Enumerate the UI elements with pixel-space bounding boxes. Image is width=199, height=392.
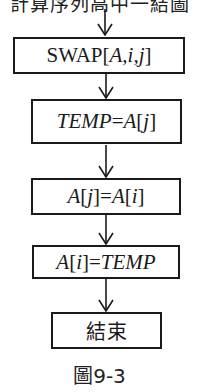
- node-text: ]: [149, 109, 156, 134]
- node-text: A: [110, 43, 123, 68]
- flow-node-temp-assign: TEMP=A[j]: [31, 99, 182, 144]
- node-text: ]: [82, 250, 89, 275]
- arrow-down-icon: [96, 145, 116, 178]
- node-text: A: [112, 184, 125, 209]
- node-text: ]: [145, 43, 152, 68]
- arrow-down-icon: [96, 74, 116, 99]
- node-text: [: [69, 250, 76, 275]
- node-text: A: [124, 109, 137, 134]
- arrow-down-icon: [96, 215, 116, 245]
- flow-node-swap: SWAP[A,i,j]: [13, 37, 185, 74]
- node-text: ]: [93, 184, 100, 209]
- node-text: A: [56, 250, 69, 275]
- node-text: =: [89, 250, 101, 275]
- node-text: SWAP[: [46, 43, 109, 68]
- arrow-down-icon: [95, 9, 115, 36]
- figure-caption: 圖9-3: [0, 360, 199, 389]
- flow-node-ai-assign: A[i]=TEMP: [32, 245, 180, 279]
- arrow-down-icon: [96, 279, 116, 312]
- node-text: =: [100, 184, 112, 209]
- node-text: 結束: [86, 316, 128, 345]
- node-text: TEMP: [101, 250, 156, 275]
- flow-node-end: 結束: [51, 312, 162, 349]
- node-text: =: [112, 109, 124, 134]
- node-text: A: [67, 184, 80, 209]
- node-text: ]: [138, 184, 145, 209]
- node-text: [: [125, 184, 132, 209]
- node-text: TEMP: [57, 109, 112, 134]
- flow-node-aj-assign: A[j]=A[i]: [31, 178, 181, 215]
